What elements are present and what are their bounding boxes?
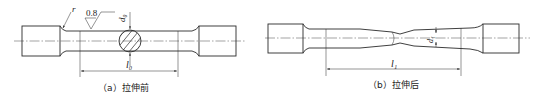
gauge-length-label-a: l₀ <box>126 59 133 70</box>
shank-top-b <box>303 24 483 34</box>
radius-leader <box>63 12 71 28</box>
caption-a: （a）拉伸前 <box>98 82 149 93</box>
radius-label: r <box>72 4 76 14</box>
left-grip-b <box>268 24 303 53</box>
fracture-line <box>392 32 394 45</box>
diameter-label-a: d₀ <box>117 14 127 22</box>
shank-bottom-b <box>303 43 483 53</box>
right-grip-b <box>483 24 519 53</box>
specimen-after-tension: d₁ l₁ （b）拉伸后 <box>265 24 530 90</box>
caption-b: （b）拉伸后 <box>368 79 419 90</box>
roughness-value: 0.8 <box>86 8 98 18</box>
gauge-length-label-b: l₁ <box>391 58 397 69</box>
neck-diameter-label: d₁ <box>426 36 435 43</box>
tensile-specimen-diagram: l₀ d₀ r 0.8 （a）拉伸前 <box>0 0 540 99</box>
specimen-before-tension: l₀ d₀ r 0.8 （a）拉伸前 <box>14 4 245 93</box>
